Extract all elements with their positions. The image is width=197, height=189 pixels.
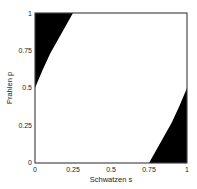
x-tick: 1 xyxy=(185,166,189,173)
y-tick: 0.75 xyxy=(18,47,32,54)
y-axis: 0 0.25 0.5 0.75 1 Prahlen p xyxy=(5,10,32,166)
y-tick: 0.25 xyxy=(18,122,32,129)
y-tick: 0 xyxy=(28,159,32,166)
x-axis-label: Schwatzen s xyxy=(90,175,133,184)
y-tick: 1 xyxy=(28,10,32,17)
x-tick: 0 xyxy=(33,166,37,173)
chart: 0 0.25 0.5 0.75 1 Schwatzen s 0 0.25 0.5… xyxy=(0,0,197,189)
x-axis: 0 0.25 0.5 0.75 1 Schwatzen s xyxy=(33,166,189,184)
x-tick: 0.25 xyxy=(66,166,80,173)
x-tick: 0.75 xyxy=(142,166,156,173)
x-tick: 0.5 xyxy=(106,166,116,173)
y-axis-label: Prahlen p xyxy=(5,72,14,104)
y-tick: 0.5 xyxy=(22,84,32,91)
